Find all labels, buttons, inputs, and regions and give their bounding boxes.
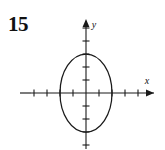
x-axis-arrowhead-icon <box>146 90 154 97</box>
y-axis-arrowhead-icon <box>83 19 90 27</box>
figure-container: 15 <box>0 0 165 150</box>
x-axis-label: x <box>144 75 150 86</box>
y-axis-label: y <box>91 19 97 30</box>
coordinate-graph: x y <box>0 0 165 150</box>
